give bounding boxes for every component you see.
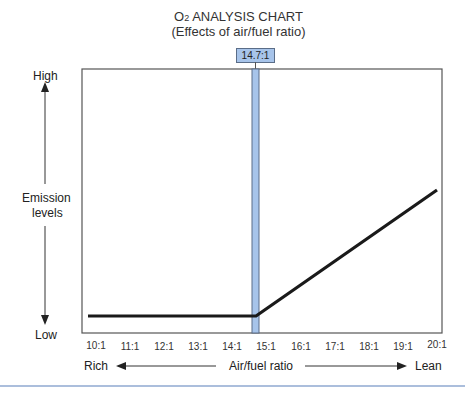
y-axis-label-line2: levels [32,206,63,220]
x-axis-label: Air/fuel ratio [229,359,293,373]
rich-label: Rich [84,359,108,373]
plot-frame [82,69,442,333]
stoichiometric-band [252,69,259,333]
x-tick: 20:1 [417,339,457,350]
y-axis-label-line1: Emission [22,191,71,205]
lean-label: Lean [415,359,442,373]
x-tick: 15:1 [246,341,286,352]
y-high-label: High [33,69,58,83]
y-low-label: Low [35,328,57,342]
emission-line [88,190,437,316]
